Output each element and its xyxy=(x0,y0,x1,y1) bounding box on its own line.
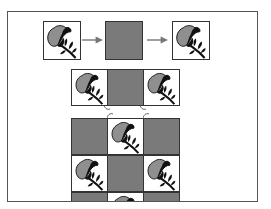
middle-tile-1 xyxy=(71,69,108,106)
flower-icon xyxy=(72,156,107,191)
flower-icon xyxy=(108,193,143,202)
grid-cell-r3c2 xyxy=(107,192,144,202)
top-tile-2 xyxy=(105,21,143,60)
arrow-right-icon xyxy=(82,35,103,45)
arrow-right-icon xyxy=(147,35,168,45)
top-tile-1 xyxy=(43,21,81,60)
grid-cell-r1c1 xyxy=(71,118,108,155)
top-tile-3 xyxy=(172,21,210,60)
middle-tile-3 xyxy=(143,69,180,106)
grid-cell-r2c3 xyxy=(143,155,180,192)
middle-tile-2 xyxy=(107,69,144,106)
fold-tab xyxy=(140,105,146,110)
flower-icon xyxy=(44,22,80,59)
flower-icon xyxy=(108,119,143,154)
flower-icon xyxy=(173,22,209,59)
fold-tab xyxy=(104,105,110,110)
flower-icon xyxy=(144,156,179,191)
grid-cell-r3c3 xyxy=(143,192,180,202)
flower-icon xyxy=(144,70,179,105)
grid-cell-r1c3 xyxy=(143,118,180,155)
grid-cell-r2c1 xyxy=(71,155,108,192)
grid-cell-r2c2 xyxy=(107,155,144,192)
flower-icon xyxy=(72,70,107,105)
grid-cell-r3c1 xyxy=(71,192,108,202)
diagram-frame xyxy=(7,11,258,202)
grid-cell-r1c2 xyxy=(107,118,144,155)
